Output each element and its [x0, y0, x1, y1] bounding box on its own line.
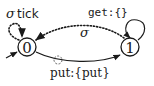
- state-diagram: σ tick σ get:{} put:{put} 0 1: [0, 0, 154, 86]
- self-loop-1-get: [126, 20, 145, 40]
- label-edge-1-0-sigma: σ: [80, 25, 90, 40]
- state-0-label: 0: [22, 39, 32, 57]
- edge-0-to-1-put: [36, 52, 120, 61]
- label-loop-1-get: get:{}: [88, 6, 128, 19]
- label-loop-0-sigma: σ: [6, 6, 16, 21]
- state-1-label: 1: [125, 39, 135, 57]
- label-loop-0-tick: tick: [17, 7, 39, 21]
- initial-arrow: [6, 52, 17, 58]
- state-1: 1: [121, 38, 139, 57]
- state-0: 0: [18, 38, 36, 57]
- self-loop-0-tick: [9, 23, 22, 40]
- label-edge-0-1-put: put:{put}: [50, 66, 110, 80]
